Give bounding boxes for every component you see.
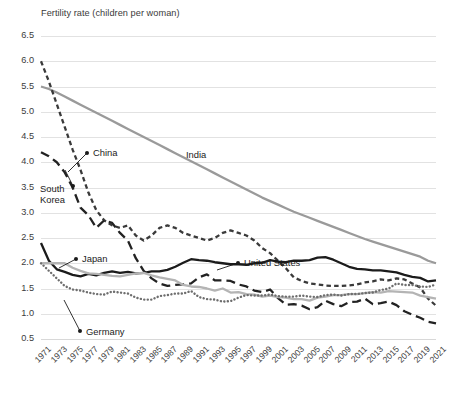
series-label-germany: Germany (86, 327, 125, 338)
fertility-rate-line-chart: Fertility rate (children per woman) 6.56… (0, 0, 455, 394)
leader-line-germany (0, 0, 455, 394)
